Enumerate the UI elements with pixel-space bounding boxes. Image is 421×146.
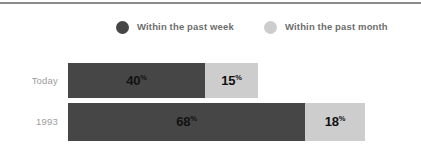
stacked-bar-today: 40% 15% (68, 63, 258, 98)
bar-row-1993: 1993 68% 18% (0, 103, 421, 141)
bar-value-1993-month: 18% (325, 115, 346, 128)
bar-segment-today-week[interactable]: 40% (68, 63, 205, 98)
bar-value-1993-week: 68% (176, 115, 197, 128)
circle-light-swatch-icon (264, 21, 277, 34)
bar-value-1993-month-number: 18 (325, 115, 339, 130)
bar-segment-today-month[interactable]: 15% (205, 63, 258, 98)
top-divider (0, 2, 421, 4)
bar-segment-1993-week[interactable]: 68% (68, 103, 305, 141)
stacked-bar-1993: 68% 18% (68, 103, 365, 141)
circle-dark-swatch-icon (116, 21, 129, 34)
chart-legend: Within the past week Within the past mon… (0, 17, 421, 37)
legend-label-week: Within the past week (137, 17, 234, 37)
bar-row-today: Today 40% 15% (0, 63, 421, 98)
stacked-bar-chart: Within the past week Within the past mon… (0, 0, 421, 146)
bar-value-today-week-number: 40 (126, 73, 140, 88)
bar-segment-1993-month[interactable]: 18% (305, 103, 365, 141)
bar-value-1993-month-suffix: % (339, 114, 345, 123)
bar-value-today-week-suffix: % (140, 73, 146, 82)
bar-value-1993-week-number: 68 (176, 115, 190, 130)
legend-item-within-past-month[interactable]: Within the past month (264, 17, 388, 37)
legend-label-month: Within the past month (285, 17, 388, 37)
bar-value-today-month-number: 15 (221, 73, 235, 88)
plot-area: Today 40% 15% 1993 (0, 55, 421, 146)
bar-value-today-month: 15% (221, 74, 242, 87)
legend-item-within-past-week[interactable]: Within the past week (116, 17, 234, 37)
category-label-today: Today (0, 75, 58, 86)
bar-value-today-month-suffix: % (235, 73, 241, 82)
category-label-1993: 1993 (0, 116, 58, 127)
bar-value-today-week: 40% (126, 74, 147, 87)
bar-value-1993-week-suffix: % (190, 114, 196, 123)
